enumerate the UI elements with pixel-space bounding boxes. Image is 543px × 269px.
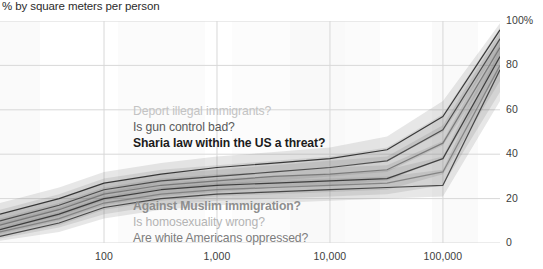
series-annotation-label: Sharia law within the US a threat? xyxy=(133,136,325,150)
y-axis-tick-label: 40 xyxy=(506,147,518,159)
density-band xyxy=(345,21,380,243)
y-axis-tick-label: 100% xyxy=(506,14,533,26)
series-annotation-label: Is gun control bad? xyxy=(133,120,235,134)
chart-root: % by square meters per person 0204060801… xyxy=(0,0,543,269)
x-axis-tick-label: 100 xyxy=(95,250,113,262)
chart-title: % by square meters per person xyxy=(2,0,160,12)
series-annotation-label: Against Muslim immigration? xyxy=(133,199,301,213)
y-axis-tick-label: 80 xyxy=(506,58,518,70)
x-axis-tick-label: 1,000 xyxy=(204,250,231,262)
series-annotation-label: Are white Americans oppressed? xyxy=(133,231,308,245)
x-axis-tick-label: 100,000 xyxy=(424,250,463,262)
x-axis-tick-label: 10,000 xyxy=(314,250,347,262)
y-axis-tick-label: 60 xyxy=(506,103,518,115)
series-annotation-label: Deport illegal immigrants? xyxy=(133,104,271,118)
y-axis-tick-label: 20 xyxy=(506,192,518,204)
y-axis-tick-label: 0 xyxy=(506,236,512,248)
series-annotation-label: Is homosexuality wrong? xyxy=(133,215,265,229)
